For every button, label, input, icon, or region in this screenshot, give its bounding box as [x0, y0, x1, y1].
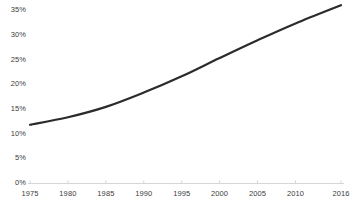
x-axis-tick-label: 2010 — [287, 190, 304, 198]
data-series-line — [30, 5, 341, 125]
y-axis-tick-label: 25% — [0, 56, 26, 64]
x-axis-tick-label: 1985 — [97, 190, 114, 198]
y-axis-tick-label: 35% — [0, 6, 26, 14]
y-axis-tick-label: 10% — [0, 130, 26, 138]
x-axis-tick-label: 1975 — [21, 190, 38, 198]
x-axis-tick-label: 2000 — [211, 190, 228, 198]
x-axis-tick-label: 1990 — [135, 190, 152, 198]
x-axis-tick-label: 2016 — [332, 190, 349, 198]
y-axis-tick-label: 0% — [0, 179, 26, 187]
y-axis-tick-label: 20% — [0, 80, 26, 88]
y-axis-tick-label: 15% — [0, 105, 26, 113]
chart-plot-area — [0, 0, 351, 205]
line-chart: 0%5%10%15%20%25%30%35% 19751980198519901… — [0, 0, 351, 205]
x-axis-tick-label: 2005 — [249, 190, 266, 198]
y-axis-tick-label: 30% — [0, 31, 26, 39]
x-axis-tick-label: 1980 — [59, 190, 76, 198]
x-axis-tick-labels: 197519801985199019952000200520102016 — [0, 190, 351, 202]
y-axis-tick-label: 5% — [0, 154, 26, 162]
y-axis-tick-labels: 0%5%10%15%20%25%30%35% — [0, 0, 26, 205]
x-axis-tick-label: 1995 — [173, 190, 190, 198]
